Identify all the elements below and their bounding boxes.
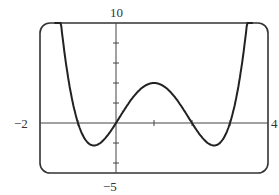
function-curve (54, 23, 252, 146)
viewing-window (40, 23, 268, 173)
plot (0, 0, 279, 195)
axis-ticks (78, 43, 230, 163)
